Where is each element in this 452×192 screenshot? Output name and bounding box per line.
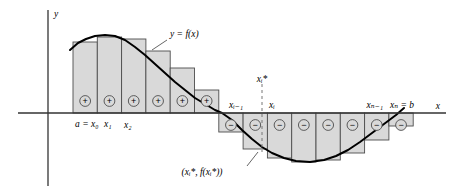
minus-icon: − <box>277 120 282 130</box>
label-x2: x₂ <box>123 120 132 130</box>
curve-label: y = f(x) <box>169 29 199 40</box>
plus-icon: + <box>83 96 88 106</box>
plus-icon: + <box>204 96 209 106</box>
label-a-x0: a = x₀ <box>75 119 98 129</box>
x-axis-label: x <box>435 101 441 111</box>
label-xi: xᵢ <box>268 100 275 110</box>
label-xn-minus-1: xₙ₋₁ <box>366 100 383 110</box>
figure-canvas: ++++++−−−−−−−−yxy = f(x)a = x₀x₁x₂xᵢ₋₁xᵢ… <box>0 0 452 192</box>
plus-icon: + <box>131 96 136 106</box>
minus-icon: − <box>350 120 355 130</box>
minus-icon: − <box>326 120 331 130</box>
riemann-rectangle <box>243 113 267 149</box>
label-xn-equals-b: xₙ = b <box>389 100 414 110</box>
label-xi-star: xᵢ* <box>256 74 268 84</box>
minus-icon: − <box>398 120 403 130</box>
minus-icon: − <box>374 120 379 130</box>
minus-icon: − <box>253 120 258 130</box>
rectangle-group <box>73 37 413 162</box>
y-axis-label: y <box>53 9 59 19</box>
plus-icon: + <box>107 96 112 106</box>
riemann-sum-figure: ++++++−−−−−−−−yxy = f(x)a = x₀x₁x₂xᵢ₋₁xᵢ… <box>0 0 452 192</box>
label-x1: x₁ <box>103 119 112 129</box>
plus-icon: + <box>180 96 185 106</box>
minus-icon: − <box>301 120 306 130</box>
point-label-leader <box>247 152 258 166</box>
label-xi-minus-1: xᵢ₋₁ <box>228 100 243 110</box>
plus-icon: + <box>155 96 160 106</box>
minus-icon: − <box>228 120 233 130</box>
sample-point-label: (xᵢ*, f(xᵢ*)) <box>182 167 223 178</box>
curve-label-leader <box>152 40 167 50</box>
